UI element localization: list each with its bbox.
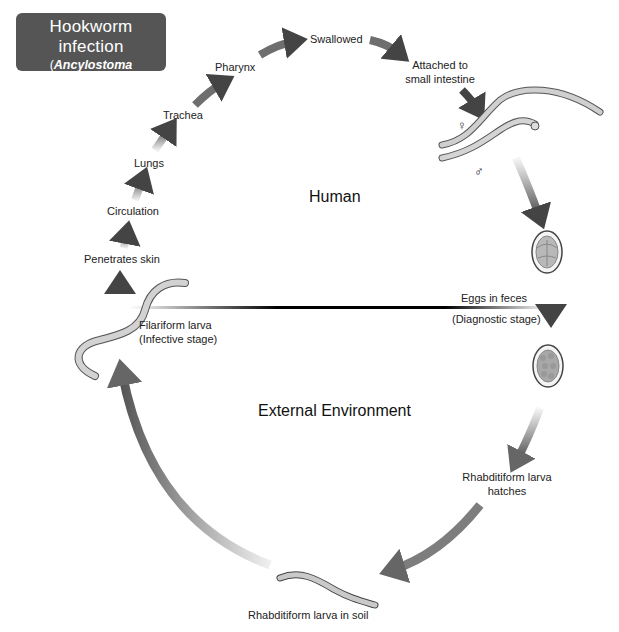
- stage-pharynx: Pharynx: [215, 60, 255, 74]
- stage-eggs-in-feces: Eggs in feces: [461, 291, 527, 305]
- arrow-to-eggs: [516, 158, 540, 218]
- stage-rhabditiform-soil: Rhabditiform larva in soil: [248, 608, 368, 622]
- arrow-soil-to-filariform: [122, 372, 270, 565]
- stage-lungs: Lungs: [134, 156, 164, 170]
- stage-circulation: Circulation: [107, 204, 159, 218]
- diagram-title: Hookworm infection: [16, 17, 166, 57]
- egg-illustration-1: [532, 231, 562, 273]
- region-label-human: Human: [309, 188, 361, 206]
- arrow-to-soil: [392, 505, 480, 570]
- stage-filariform-larva: Filariform larva (Infective stage): [139, 318, 217, 346]
- stage-trachea: Trachea: [163, 108, 203, 122]
- rhabditiform-larva-illustration: [280, 575, 375, 605]
- species-line-2: Necator americanus): [16, 89, 166, 105]
- stage-swallowed: Swallowed: [310, 32, 363, 46]
- female-symbol-icon: ♀: [457, 118, 467, 133]
- stage-diagnostic: (Diagnostic stage): [452, 312, 541, 326]
- stage-attached: Attached to small intestine: [400, 58, 480, 86]
- stage-rhabditiform-hatches: Rhabditiform larva hatches: [452, 470, 562, 498]
- male-symbol-icon: ♂: [474, 164, 484, 179]
- region-label-external: External Environment: [258, 402, 411, 420]
- species-line-1: (Ancylostoma duodenale,: [16, 57, 166, 89]
- human-environment-divider: [130, 306, 550, 309]
- stage-penetrates-skin: Penetrates skin: [84, 252, 160, 266]
- egg-illustration-2: [533, 345, 563, 387]
- diagram-title-box: Hookworm infection (Ancylostoma duodenal…: [16, 13, 166, 71]
- arrow-to-hatching: [516, 408, 540, 462]
